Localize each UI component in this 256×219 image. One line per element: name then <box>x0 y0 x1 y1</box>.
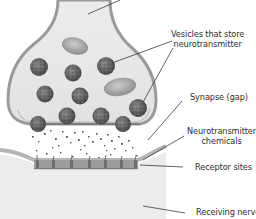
receiving-nerve <box>0 146 166 219</box>
label-vesicles: Vesicles that store neurotransmitter <box>171 29 244 49</box>
label-synapse: Synapse (gap) <box>190 92 248 102</box>
label-vesicles-line1: Vesicles that store <box>171 29 244 39</box>
label-neurotransmitter-line1: Neurotransmitter <box>187 126 256 136</box>
synapse-diagram: Vesicles that store neurotransmitter Syn… <box>0 0 256 219</box>
label-neurotransmitter: Neurotransmitter chemicals <box>187 126 256 146</box>
label-neurotransmitter-line2: chemicals <box>187 136 256 146</box>
label-receptor-sites: Receptor sites <box>195 162 252 172</box>
neurotransmitter-particles <box>32 130 137 160</box>
label-vesicles-line2: neurotransmitter <box>171 39 244 49</box>
label-receiving-nerve: Receiving nerve <box>196 207 256 217</box>
